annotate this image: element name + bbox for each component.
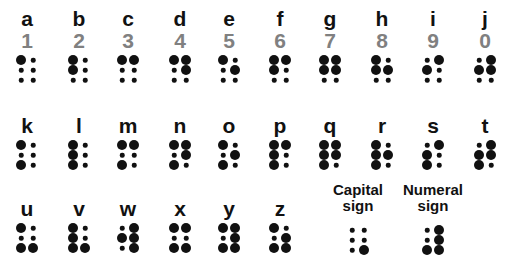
letter-label: q [305, 115, 355, 137]
braille-letter-cell: d4 [155, 8, 205, 84]
braille-dot-6-flat [132, 78, 137, 83]
braille-dot-6-flat [489, 163, 494, 168]
braille-dot-4-raised [486, 55, 496, 65]
letter-label: v [54, 198, 104, 220]
braille-dot-6-flat [233, 163, 238, 168]
braille-dot-4-raised [129, 223, 139, 233]
braille-dot-5-raised [486, 65, 496, 75]
braille-letter-cell: v [54, 198, 104, 252]
braille-dot-2-raised [319, 150, 329, 160]
digit-label: 2 [54, 30, 104, 52]
braille-dot-1-raised [269, 223, 279, 233]
braille-dot-3-raised [474, 160, 484, 170]
braille-dot-2-raised [117, 233, 127, 243]
braille-dot-1-raised [16, 140, 26, 150]
braille-dot-2-flat [221, 68, 226, 73]
braille-dot-5-raised [331, 150, 341, 160]
letter-label: h [357, 8, 407, 30]
braille-dot-4-raised [281, 55, 291, 65]
braille-dot-4-raised [181, 55, 191, 65]
braille-letter-cell: p [255, 115, 305, 169]
braille-dot-2-flat [172, 68, 177, 73]
braille-letter-cell: f6 [255, 8, 305, 84]
braille-dot-5-flat [31, 236, 36, 241]
numeral-sign-cell: Numeralsign [393, 182, 473, 254]
braille-dot-6-raised [230, 243, 240, 253]
braille-dot-3-flat [19, 78, 24, 83]
braille-dot-1-raised [16, 55, 26, 65]
braille-dot-6-raised [281, 243, 291, 253]
braille-dot-2-flat [172, 153, 177, 158]
braille-cell-dots [67, 56, 91, 84]
braille-dot-5-flat [362, 238, 367, 243]
braille-dot-5-raised [434, 235, 444, 245]
braille-dot-2-raised [269, 65, 279, 75]
braille-dot-1-raised [269, 55, 279, 65]
letter-label: a [2, 8, 52, 30]
braille-dot-3-raised [269, 160, 279, 170]
braille-dot-6-flat [284, 163, 289, 168]
digit-label: 8 [357, 30, 407, 52]
braille-letter-cell: k [2, 115, 52, 169]
braille-dot-6-flat [489, 78, 494, 83]
braille-dot-5-raised [129, 233, 139, 243]
braille-dot-4-raised [181, 140, 191, 150]
braille-dot-6-flat [31, 163, 36, 168]
sign-label-line2: sign [318, 198, 398, 214]
braille-dot-3-raised [319, 160, 329, 170]
braille-letter-cell: w [103, 198, 153, 252]
digit-label: 6 [255, 30, 305, 52]
braille-dot-6-flat [83, 78, 88, 83]
braille-dot-5-flat [132, 68, 137, 73]
digit-label: 5 [204, 30, 254, 52]
braille-letter-cell: n [155, 115, 205, 169]
braille-dot-5-raised [383, 65, 393, 75]
braille-cell-dots [15, 141, 39, 169]
braille-dot-3-raised [169, 160, 179, 170]
braille-dot-5-raised [281, 233, 291, 243]
braille-letter-cell: g7 [305, 8, 355, 84]
braille-dot-6-flat [437, 163, 442, 168]
braille-dot-3-flat [71, 78, 76, 83]
braille-dot-2-flat [19, 153, 24, 158]
braille-cell-dots [421, 56, 445, 84]
braille-dot-6-raised [359, 245, 369, 255]
braille-dot-2-flat [221, 153, 226, 158]
braille-letter-cell: h8 [357, 8, 407, 84]
braille-cell-dots [473, 56, 497, 84]
braille-cell-dots [168, 56, 192, 84]
braille-dot-1-raised [269, 140, 279, 150]
braille-dot-4-flat [233, 143, 238, 148]
braille-dot-2-flat [221, 236, 226, 241]
letter-label: w [103, 198, 153, 220]
braille-dot-3-raised [16, 160, 26, 170]
digit-label: 9 [408, 30, 458, 52]
braille-dot-4-raised [181, 223, 191, 233]
braille-dot-5-raised [383, 150, 393, 160]
braille-letter-cell: s [408, 115, 458, 169]
braille-letter-cell: m [103, 115, 153, 169]
braille-dot-6-flat [284, 78, 289, 83]
braille-dot-5-flat [31, 153, 36, 158]
braille-dot-2-raised [319, 65, 329, 75]
letter-label: o [204, 115, 254, 137]
braille-dot-1-raised [218, 55, 228, 65]
braille-dot-4-flat [31, 226, 36, 231]
braille-dot-5-flat [83, 68, 88, 73]
braille-dot-1-raised [218, 140, 228, 150]
letter-label: p [255, 115, 305, 137]
braille-dot-6-flat [233, 78, 238, 83]
braille-dot-5-flat [31, 68, 36, 73]
braille-dot-3-raised [218, 160, 228, 170]
braille-dot-3-raised [218, 243, 228, 253]
braille-letter-cell: u [2, 198, 52, 252]
braille-cell-dots [421, 226, 445, 254]
braille-dot-1-flat [425, 228, 430, 233]
braille-cell-dots [116, 141, 140, 169]
braille-dot-3-raised [68, 160, 78, 170]
digit-label: 4 [155, 30, 205, 52]
braille-dot-1-raised [68, 55, 78, 65]
braille-letter-cell: e5 [204, 8, 254, 84]
braille-letter-cell: y [204, 198, 254, 252]
braille-dot-4-raised [230, 223, 240, 233]
